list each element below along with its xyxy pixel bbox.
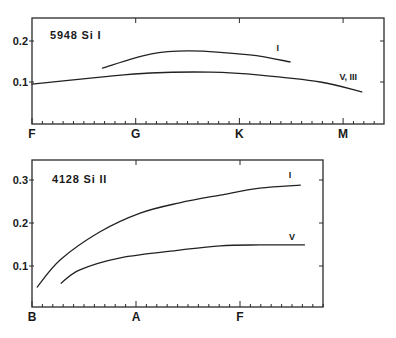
y-tick-label: 0.2 [13, 217, 28, 229]
y-tick-label: 0.3 [13, 174, 28, 186]
series-label: I [277, 43, 280, 53]
x-tick-label: B [28, 310, 37, 324]
x-tick-label: F [28, 127, 35, 141]
series-curve-v-iii [32, 72, 362, 92]
series-label: I [289, 170, 292, 180]
panel-title: 5948 Si I [50, 29, 101, 41]
series-label: V, III [339, 72, 357, 82]
panel-title: 4128 Si II [52, 173, 107, 185]
spectral-line-strength-figure: FGKM0.10.25948 Si IIV, III BAF0.10.20.34… [0, 0, 396, 338]
series-curve-v [61, 245, 304, 283]
y-tick-label: 0.1 [13, 260, 28, 272]
panel-bottom-4128-si-ii: BAF0.10.20.34128 Si IIIV [13, 160, 323, 324]
panel-top-5948-si-i: FGKM0.10.25948 Si IIV, III [13, 18, 384, 141]
y-tick-label: 0.2 [13, 35, 28, 47]
y-tick-label: 0.1 [13, 76, 28, 88]
x-tick-label: K [235, 127, 244, 141]
x-tick-label: F [236, 310, 243, 324]
x-tick-label: G [131, 127, 140, 141]
figure-canvas: FGKM0.10.25948 Si IIV, III BAF0.10.20.34… [0, 0, 396, 338]
series-curve-i [103, 51, 291, 68]
series-label: V [289, 232, 295, 242]
x-tick-label: A [132, 310, 141, 324]
x-tick-label: M [338, 127, 348, 141]
